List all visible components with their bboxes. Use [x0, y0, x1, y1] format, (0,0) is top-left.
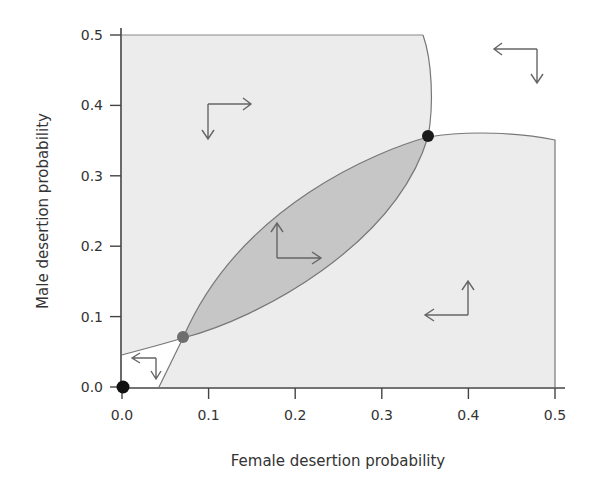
svg-text:0.1: 0.1: [81, 309, 103, 325]
arrow-top-right-icon: [494, 43, 543, 83]
svg-text:0.4: 0.4: [81, 97, 103, 113]
svg-text:0.2: 0.2: [81, 238, 103, 254]
svg-text:0.5: 0.5: [544, 407, 566, 423]
phase-plot: 0.0 0.1 0.2 0.3 0.4 0.5 0.0 0.1 0.2 0.3 …: [0, 0, 595, 493]
arrow-lower-left-icon: [132, 353, 161, 379]
svg-text:0.1: 0.1: [197, 407, 219, 423]
y-tick-labels: 0.0 0.1 0.2 0.3 0.4 0.5: [81, 27, 103, 395]
x-ticks: [122, 388, 555, 399]
svg-text:0.4: 0.4: [457, 407, 479, 423]
equilibrium-upper-stable: [422, 130, 434, 142]
x-axis-title: Female desertion probability: [231, 452, 446, 470]
x-tick-labels: 0.0 0.1 0.2 0.3 0.4 0.5: [111, 407, 566, 423]
svg-text:0.3: 0.3: [371, 407, 393, 423]
svg-text:0.0: 0.0: [81, 379, 103, 395]
y-ticks: [110, 35, 121, 387]
svg-text:0.5: 0.5: [81, 27, 103, 43]
equilibrium-lower-unstable: [177, 331, 189, 343]
svg-text:0.3: 0.3: [81, 168, 103, 184]
svg-text:0.2: 0.2: [284, 407, 306, 423]
svg-text:0.0: 0.0: [111, 407, 133, 423]
equilibrium-origin-stable: [117, 381, 130, 394]
y-axis-title: Male desertion probability: [34, 113, 52, 309]
